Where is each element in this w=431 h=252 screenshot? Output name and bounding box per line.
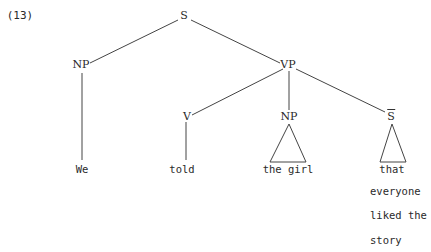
leaf-told: told <box>169 163 194 175</box>
leaf-story: story <box>370 234 402 246</box>
triangle-sbar <box>380 124 406 162</box>
leaf-everyone: everyone <box>370 185 421 197</box>
branch-s-vp <box>191 20 280 63</box>
node-np-object: NP <box>280 111 297 123</box>
branch-s-np <box>90 20 178 63</box>
leaf-the-girl: the girl <box>263 163 314 175</box>
leaf-that: that <box>379 163 404 175</box>
tree-branches <box>0 0 431 252</box>
triangle-np <box>270 124 306 162</box>
branch-vp-sbar <box>296 69 385 112</box>
node-np-subject: NP <box>72 59 89 71</box>
branch-vp-v <box>192 69 283 115</box>
node-s: S <box>180 10 188 22</box>
node-s-bar: S <box>387 111 395 123</box>
leaf-liked-the: liked the <box>370 209 427 221</box>
example-number: (13) <box>7 10 34 22</box>
s-bar-label: S <box>387 111 395 123</box>
leaf-we: We <box>76 163 89 175</box>
node-v: V <box>183 111 191 123</box>
node-vp: VP <box>280 59 295 71</box>
